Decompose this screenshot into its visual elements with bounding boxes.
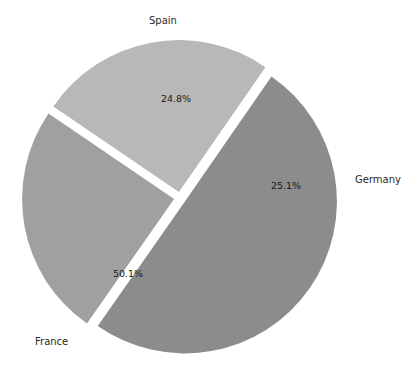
pie-percent-spain: 24.8% — [161, 93, 191, 104]
pie-percent-france: 50.1% — [113, 268, 143, 279]
pie-chart-canvas: 24.8%25.1%50.1% — [0, 0, 417, 386]
pie-label-germany: Germany — [355, 175, 401, 185]
pie-chart: 24.8%25.1%50.1% Spain Germany France — [0, 0, 417, 386]
pie-slices-group — [22, 40, 337, 353]
pie-label-france: France — [35, 337, 68, 347]
pie-label-spain: Spain — [149, 16, 177, 26]
pie-percent-germany: 25.1% — [271, 180, 301, 191]
